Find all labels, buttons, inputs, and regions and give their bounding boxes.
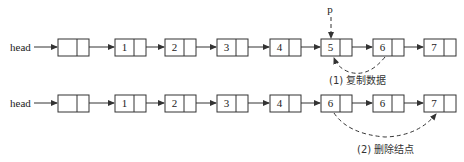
head-label: head [10,97,31,109]
head-label: head [10,41,31,53]
node-3: 3 [217,95,248,112]
svg-text:6: 6 [380,41,386,53]
pointer-p-label: p [327,3,333,15]
svg-text:1: 1 [122,41,128,53]
svg-text:7: 7 [431,41,437,53]
svg-text:6: 6 [380,97,386,109]
svg-text:7: 7 [431,97,437,109]
svg-text:5: 5 [328,41,334,53]
node-2: 2 [165,39,196,56]
head-node [58,39,89,56]
svg-text:2: 2 [172,97,178,109]
copy-data-caption: (1) 复制数据 [329,74,386,86]
delete-node-arc [334,113,436,137]
node-6: 6 [373,95,404,112]
node-5: 5 [321,39,352,56]
svg-text:1: 1 [122,97,128,109]
head-node [58,95,89,112]
row-2: head 1 2 3 4 [10,95,456,155]
svg-text:6: 6 [328,97,334,109]
row-1: head 1 2 3 4 [10,3,456,86]
node-5: 6 [321,95,352,112]
node-4: 4 [270,39,301,56]
delete-node-caption: (2) 删除结点 [357,143,414,155]
linked-list-diagram: head 1 2 3 4 [0,0,464,162]
svg-text:4: 4 [277,97,283,109]
node-4: 4 [270,95,301,112]
node-6: 6 [373,39,404,56]
node-3: 3 [217,39,248,56]
svg-text:2: 2 [172,41,178,53]
node-7: 7 [424,95,456,112]
copy-data-arc [334,57,385,73]
svg-text:4: 4 [277,41,283,53]
svg-text:3: 3 [224,41,230,53]
node-1: 1 [115,39,146,56]
node-1: 1 [115,95,146,112]
node-2: 2 [165,95,196,112]
node-7: 7 [424,39,456,56]
svg-text:3: 3 [224,97,230,109]
